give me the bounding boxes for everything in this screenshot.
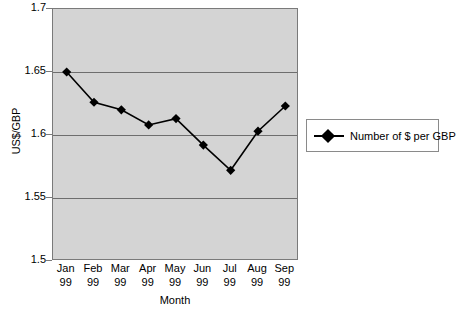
legend-entry: Number of $ per GBP: [307, 120, 438, 151]
x-axis-tick-label: Sep99: [261, 262, 307, 289]
plot-area: [52, 8, 298, 260]
data-series-layer: [53, 9, 299, 261]
y-axis-tick-label: 1.6: [12, 128, 46, 139]
legend-entry-label: Number of $ per GBP: [350, 130, 456, 142]
y-axis-tick-label: 1.5: [12, 254, 46, 265]
y-axis-tick-labels: 1.71.651.61.551.5: [8, 0, 46, 315]
y-axis-tick-label: 1.55: [12, 191, 46, 202]
legend-diamond-marker-icon: [312, 129, 346, 143]
x-axis-title: Month: [52, 294, 298, 306]
data-point-marker: [144, 120, 153, 129]
y-axis-tick-label: 1.65: [12, 65, 46, 76]
plot-inner: [53, 9, 297, 259]
chart-legend: Number of $ per GBP: [306, 119, 439, 152]
y-axis-tick-mark: [46, 260, 52, 261]
y-axis-tick-label: 1.7: [12, 2, 46, 13]
x-axis-tick-labels: Jan99Feb99Mar99Apr99May99Jun99Jul99Aug99…: [52, 262, 298, 296]
data-point-marker: [117, 105, 126, 114]
